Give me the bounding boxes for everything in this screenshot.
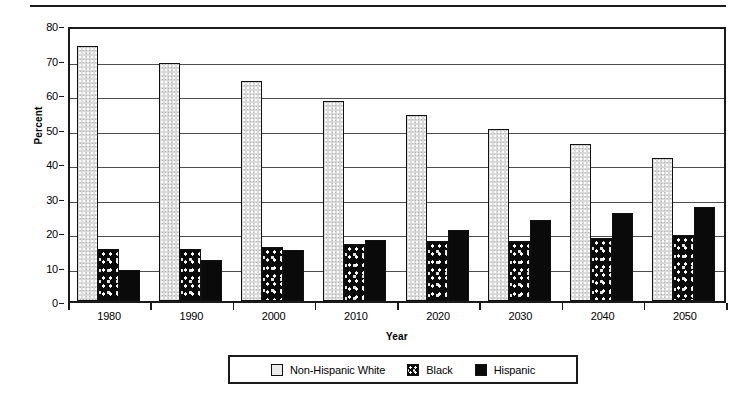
x-axis-tick-mark (397, 303, 399, 310)
x-axis-tick-mark (479, 303, 481, 310)
bar (180, 249, 201, 301)
bar (448, 230, 469, 301)
y-axis-tick-label: 10 (46, 264, 58, 275)
legend-item: Hispanic (475, 364, 535, 376)
bar (612, 213, 633, 301)
legend-label: Black (426, 364, 452, 376)
y-axis-tick-label: 40 (46, 160, 58, 171)
bar (488, 129, 509, 301)
bar (427, 241, 448, 301)
x-axis-tick-labels: 19801990200020102020203020402050 (68, 310, 726, 328)
x-axis-tick-label: 2010 (344, 310, 368, 323)
bar (673, 235, 694, 301)
x-axis-tick-mark (68, 303, 70, 310)
x-axis-tick-mark (562, 303, 564, 310)
x-axis-tick-label: 1980 (97, 310, 121, 323)
legend-label: Non-Hispanic White (290, 364, 385, 376)
bar (98, 249, 119, 301)
bar (694, 207, 715, 301)
y-axis-tick-mark (59, 96, 64, 97)
bar (406, 115, 427, 301)
y-axis-tick-mark (59, 62, 64, 63)
y-axis-tick-mark (59, 200, 64, 201)
legend-swatch-icon (271, 364, 283, 376)
y-axis-tick-label: 50 (46, 126, 58, 137)
top-rule-divider (30, 5, 726, 7)
legend-swatch-icon (407, 364, 419, 376)
legend-item: Black (407, 364, 452, 376)
bar-group (488, 29, 551, 301)
x-axis-tick-mark (233, 303, 235, 310)
bar (323, 101, 344, 301)
y-axis-tick-label: 70 (46, 57, 58, 68)
x-axis-tick-label: 2000 (262, 310, 286, 323)
bar-group (241, 29, 304, 301)
x-axis-tick-mark (726, 303, 728, 310)
bar-group (652, 29, 715, 301)
y-axis-tick-mark (59, 269, 64, 270)
bar (119, 270, 140, 301)
y-axis-tick-label: 60 (46, 91, 58, 102)
legend-swatch-icon (475, 364, 487, 376)
bar-group (77, 29, 140, 301)
bar (530, 220, 551, 301)
chart-page: Percent 01020304050607080 19801990200020… (0, 0, 753, 411)
chart-legend: Non-Hispanic WhiteBlackHispanic (228, 355, 578, 384)
y-axis-tick-mark (59, 27, 64, 28)
x-axis-tick-mark (315, 303, 317, 310)
y-axis-tick-labels: 01020304050607080 (30, 27, 64, 303)
y-axis-tick-label: 30 (46, 195, 58, 206)
bar (365, 240, 386, 301)
x-axis-tick-label: 2050 (673, 310, 697, 323)
bar-group (406, 29, 469, 301)
legend-label: Hispanic (494, 364, 535, 376)
bar (159, 63, 180, 301)
plot-area (68, 27, 726, 303)
x-axis-tick-label: 2030 (509, 310, 533, 323)
bar-group (570, 29, 633, 301)
bar (241, 81, 262, 301)
x-axis-tick-label: 1990 (180, 310, 204, 323)
x-axis-tick-mark (150, 303, 152, 310)
bar (262, 247, 283, 301)
bar-group (159, 29, 222, 301)
y-axis-tick-mark (59, 234, 64, 235)
bars-layer (70, 29, 724, 301)
y-axis-tick-label: 80 (46, 22, 58, 33)
x-axis-tick-label: 2040 (591, 310, 615, 323)
y-axis-tick-label: 20 (46, 229, 58, 240)
bar (509, 241, 530, 301)
x-axis-tick-mark (644, 303, 646, 310)
y-axis-tick-label: 0 (52, 298, 58, 309)
x-axis-tick-label: 2020 (426, 310, 450, 323)
y-axis-tick-mark (59, 303, 64, 304)
bar (283, 250, 304, 301)
bar-group (323, 29, 386, 301)
bar (570, 144, 591, 301)
bar (77, 46, 98, 301)
y-axis-tick-mark (59, 131, 64, 132)
bar (344, 244, 365, 301)
bar (591, 238, 612, 301)
bar (652, 158, 673, 301)
legend-item: Non-Hispanic White (271, 364, 385, 376)
y-axis-tick-mark (59, 165, 64, 166)
bar (201, 260, 222, 301)
x-axis-title: Year (68, 331, 726, 342)
